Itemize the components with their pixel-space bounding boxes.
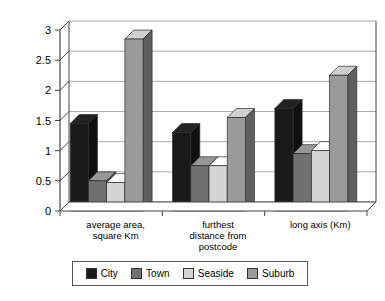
legend-item-town: Town [131,268,169,279]
x-category-label: average area, [86,219,145,230]
bar-suburb-1 [227,108,254,211]
legend-item-city: City [86,268,118,279]
y-tick-label: 2.5 [36,54,51,66]
y-tick-label: 2 [45,84,51,96]
x-category-label: distance from [189,230,246,241]
legend-label-suburb: Suburb [262,268,294,279]
legend-swatch-town [131,268,142,279]
legend-item-seaside: Seaside [183,268,234,279]
x-axis [60,202,376,216]
y-tick-label: 1.5 [36,115,51,127]
y-tick-label: 1 [45,145,51,157]
bar-suburb-2 [330,66,357,211]
y-tick-label: 0 [45,205,51,217]
chart-legend: City Town Seaside Suburb [72,261,308,286]
legend-label-seaside: Seaside [198,268,234,279]
legend-label-town: Town [146,268,169,279]
x-category-label: furthest [202,219,234,230]
y-tick-labels: 00.511.522.53 [36,24,51,217]
x-category-label: long axis (Km) [290,219,351,230]
legend-swatch-seaside [183,268,194,279]
plot-area: 00.511.522.53 average area,square Kmfurt… [0,0,385,255]
legend-item-suburb: Suburb [247,268,294,279]
bar-chart: 00.511.522.53 average area,square Kmfurt… [0,0,385,301]
legend-label-city: City [101,268,118,279]
x-category-label: postcode [199,241,238,252]
legend-swatch-city [86,268,97,279]
bar-suburb-0 [125,30,152,211]
x-category-label: square Km [93,230,139,241]
x-tick-labels: average area,square Kmfurthestdistance f… [86,219,350,252]
legend-swatch-suburb [247,268,258,279]
chart-canvas: 00.511.522.53 average area,square Kmfurt… [0,0,385,255]
y-tick-label: 0.5 [36,175,51,187]
y-tick-label: 3 [45,24,51,36]
